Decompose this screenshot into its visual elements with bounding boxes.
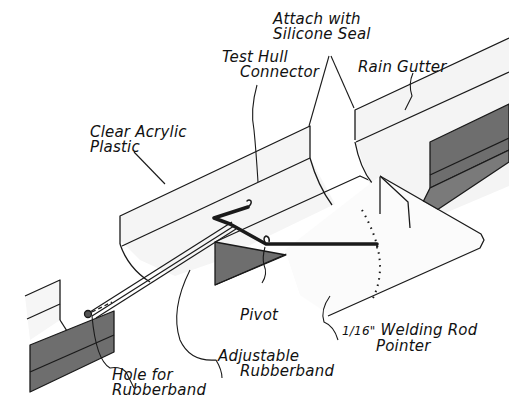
- label-rain-gutter: Rain Gutter: [358, 60, 447, 75]
- label-pivot: Pivot: [240, 308, 278, 323]
- diagram-canvas: Attach with Silicone Seal Test Hull Conn…: [0, 0, 509, 419]
- left-hull-section: [25, 280, 114, 392]
- label-hole-for-rubberband: Hole for Rubberband: [112, 368, 206, 398]
- label-test-hull-connector: Test Hull Connector: [222, 50, 319, 80]
- label-welding-rod-pointer: 1/16" Welding Rod Pointer: [342, 323, 477, 354]
- label-adjustable-rubberband: Adjustable Rubberband: [218, 349, 334, 379]
- label-attach-with-silicone-seal: Attach with Silicone Seal: [273, 12, 371, 42]
- label-clear-acrylic-plastic: Clear Acrylic Plastic: [90, 125, 187, 155]
